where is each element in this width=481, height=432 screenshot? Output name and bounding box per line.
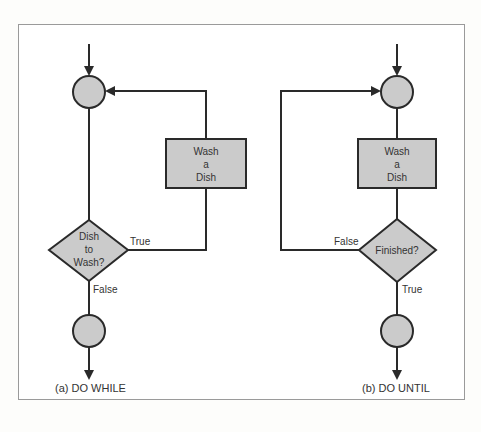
junction-node-bottom — [381, 315, 413, 347]
false-edge-label: False — [334, 236, 359, 247]
process-label-line-3: Dish — [196, 172, 216, 183]
loop-back-arrow — [107, 91, 206, 139]
caption-do-until: (b) DO UNTIL — [362, 382, 430, 394]
do-while-diagram: Dish to Wash? True Wash a Dish False — [49, 44, 246, 378]
decision-label: Finished? — [375, 245, 419, 256]
decision-label-line-1: Dish — [79, 231, 99, 242]
caption-do-while: (a) DO WHILE — [55, 382, 126, 394]
junction-node-top — [381, 76, 413, 108]
true-edge-label: True — [402, 284, 423, 295]
do-until-diagram: Wash a Dish Finished? False True — [281, 44, 436, 378]
junction-node-bottom — [73, 315, 105, 347]
process-label-line-3: Dish — [387, 172, 407, 183]
process-label-line-1: Wash — [193, 146, 218, 157]
false-edge-label: False — [93, 284, 118, 295]
process-label-line-1: Wash — [384, 146, 409, 157]
decision-label-line-2: to — [85, 244, 94, 255]
junction-node-top — [73, 76, 105, 108]
flowchart-canvas: Dish to Wash? True Wash a Dish False Was… — [0, 0, 481, 432]
true-edge-label: True — [130, 236, 151, 247]
decision-label-line-3: Wash? — [74, 257, 105, 268]
process-label-line-2: a — [203, 159, 209, 170]
process-label-line-2: a — [394, 159, 400, 170]
